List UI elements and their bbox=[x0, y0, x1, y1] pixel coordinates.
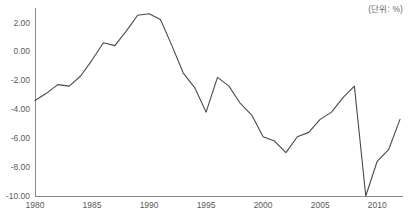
y-tick-label: -4.00 bbox=[0, 104, 30, 114]
x-tick-label: 2010 bbox=[357, 200, 397, 210]
y-tick-label: 2.00 bbox=[0, 18, 30, 28]
x-tick-label: 2000 bbox=[243, 200, 283, 210]
y-tick-label: -2.00 bbox=[0, 75, 30, 85]
chart-axes bbox=[35, 8, 403, 196]
x-tick-label: 1980 bbox=[15, 200, 55, 210]
y-tick-label: -6.00 bbox=[0, 133, 30, 143]
line-chart-plot bbox=[0, 0, 409, 220]
y-tick-label: 0.00 bbox=[0, 46, 30, 56]
x-tick-label: 1995 bbox=[186, 200, 226, 210]
x-tick-label: 2005 bbox=[300, 200, 340, 210]
chart-container: (단위: %) 2.000.00-2.00-4.00-6.00-8.00-10.… bbox=[0, 0, 409, 220]
data-series-line bbox=[35, 14, 400, 196]
x-tick-label: 1990 bbox=[129, 200, 169, 210]
y-tick-label: -8.00 bbox=[0, 162, 30, 172]
x-tick-label: 1985 bbox=[72, 200, 112, 210]
